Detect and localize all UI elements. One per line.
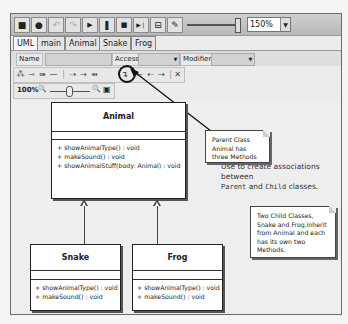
diagram-canvas[interactable]: Use to create associations between Paren…: [12, 100, 340, 313]
stop-icon[interactable]: ■: [116, 17, 132, 33]
class-operations: + showAnimalType() : void + makeSound() …: [31, 280, 120, 301]
play-icon[interactable]: ▶: [82, 17, 98, 33]
note-text: Two Child Classes, Snake and Frog,inheri…: [257, 212, 327, 253]
class-attributes: [52, 132, 185, 140]
class-attributes: [133, 271, 222, 280]
inheritance-line-frog[interactable]: [157, 206, 158, 244]
tab-main[interactable]: main: [37, 36, 65, 50]
pen-icon[interactable]: ✎: [167, 17, 183, 33]
name-label: Name: [16, 53, 43, 66]
inheritance-line-snake[interactable]: [84, 206, 85, 244]
arrowhead-fill: [82, 202, 86, 206]
name-input[interactable]: [45, 53, 112, 66]
tab-frog[interactable]: Frog: [131, 36, 156, 50]
uml-editor-window: ■ ● ↶ ↷ ▶ ❚ ■ ▶❘ ⊟ ✎ 150% ▼ UML main Ani…: [10, 13, 342, 315]
class-animal[interactable]: Animal + showAnimalType() : void + makeS…: [51, 102, 186, 199]
operation: + showAnimalType() : void: [137, 283, 222, 292]
zoom-slider-track[interactable]: [187, 24, 237, 26]
access-select[interactable]: ▼: [138, 53, 180, 66]
operation: + showAnimalType() : void: [57, 143, 185, 152]
export-icon[interactable]: ⊟: [150, 17, 166, 33]
tab-bar: UML main Animal Snake Frog: [11, 36, 341, 50]
class-name: Animal: [52, 103, 185, 132]
operation: + showAnimalType() : void: [35, 283, 120, 292]
operation: + makeSound() : void: [35, 292, 120, 301]
chevron-down-icon[interactable]: ▼: [280, 18, 290, 31]
arrowhead-fill: [155, 202, 159, 206]
operation: + makeSound() : void: [57, 152, 185, 161]
step-icon[interactable]: ▶❘: [133, 17, 149, 33]
note-text: Parent Class Animal has three Methods: [212, 136, 257, 160]
properties-bar: Name Access ▼ Modifier ▼: [11, 50, 341, 66]
redo-icon[interactable]: ↷: [65, 17, 81, 33]
main-toolbar: ■ ● ↶ ↷ ▶ ❚ ■ ▶❘ ⊟ ✎ 150% ▼: [11, 14, 341, 36]
operation: + showAnimalStuff(body: Animal) : void: [57, 161, 185, 170]
zoom-slider-handle[interactable]: [235, 18, 241, 33]
save-icon[interactable]: ■: [14, 17, 30, 33]
class-operations: + showAnimalType() : void + makeSound() …: [52, 140, 185, 170]
class-frog[interactable]: Frog + showAnimalType() : void + makeSou…: [132, 244, 223, 311]
annotation-callout: Use to create associations between Paren…: [221, 162, 346, 192]
class-snake[interactable]: Snake + showAnimalType() : void + makeSo…: [30, 244, 121, 311]
class-operations: + showAnimalType() : void + makeSound() …: [133, 280, 222, 301]
modifier-select[interactable]: ▼: [211, 53, 255, 66]
note-fold: [329, 206, 336, 213]
zoom-select[interactable]: 150% ▼: [247, 17, 291, 32]
tab-snake[interactable]: Snake: [99, 36, 131, 50]
note-children[interactable]: Two Child Classes, Snake and Frog,inheri…: [250, 206, 336, 258]
zoom-value: 150%: [250, 20, 273, 29]
callout-line-2: Parent and Child classes.: [221, 182, 346, 192]
pause-icon[interactable]: ❚: [99, 17, 115, 33]
tab-animal[interactable]: Animal: [65, 36, 101, 50]
callout-line-1: Use to create associations between: [221, 162, 346, 182]
tab-uml[interactable]: UML: [13, 36, 38, 50]
print-icon[interactable]: ●: [31, 17, 47, 33]
class-attributes: [31, 271, 120, 280]
chevron-down-icon: ▼: [172, 54, 179, 65]
modifier-label: Modifier: [180, 53, 214, 66]
undo-icon[interactable]: ↶: [48, 17, 64, 33]
class-name: Snake: [31, 245, 120, 271]
class-name: Frog: [133, 245, 222, 271]
chevron-down-icon: ▼: [247, 54, 254, 65]
note-parent[interactable]: Parent Class Animal has three Methods: [205, 130, 270, 163]
note-fold: [263, 130, 270, 137]
operation: + makeSound() : void: [137, 292, 222, 301]
